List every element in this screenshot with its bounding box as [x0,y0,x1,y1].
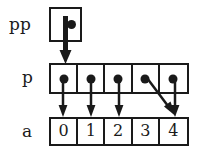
a-value-array: 0 1 2 3 4 [49,117,189,146]
pp-pointer-dot-icon [67,20,76,29]
pointer-dot-icon [169,74,178,83]
pointer-dot-icon [59,74,68,83]
a-array-cell-1: 1 [78,119,105,144]
p-array-cell-1 [78,65,105,92]
a-array-cell-0: 0 [51,119,78,144]
p-pointer-array [49,63,189,94]
pointer-dot-icon [141,74,150,83]
row-label-a: a [22,123,32,140]
pointer-dot-icon [114,74,123,83]
pointer-diagram-canvas: pp p a 0 1 2 3 4 [0,0,203,154]
pointer-dot-icon [86,74,95,83]
p-array-cell-2 [105,65,132,92]
row-label-p: p [22,69,33,86]
row-label-pp: pp [9,16,31,33]
a-array-cell-4: 4 [160,119,187,144]
pp-pointer-box [49,7,82,42]
a-array-cell-3: 3 [133,119,160,144]
a-array-cell-2: 2 [105,119,132,144]
p-array-cell-4 [160,65,187,92]
p-array-cell-3 [133,65,160,92]
p-array-cell-0 [51,65,78,92]
